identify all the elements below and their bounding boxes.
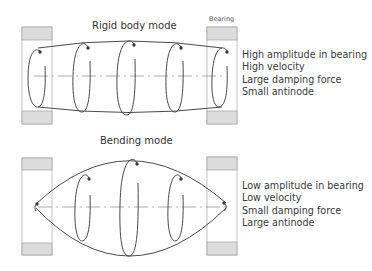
rigid-mode-figure (22, 27, 237, 124)
bending-coil-dots (35, 162, 225, 205)
rigid-coils (28, 41, 227, 115)
right-bearing-bottom (207, 157, 237, 255)
bending-coils (35, 159, 226, 256)
rigid-property-3: Large damping force (242, 74, 367, 86)
bending-property-4: Large antinode (242, 217, 364, 229)
rigid-property-4: Small antinode (242, 86, 367, 98)
rotor-mode-diagram (0, 0, 372, 271)
bending-mode-figure (22, 157, 237, 256)
bending-property-1: Low amplitude in bearing (242, 180, 364, 192)
bending-envelope-top (36, 161, 226, 204)
bending-property-2: Low velocity (242, 192, 364, 204)
bearing-label: Bearing (209, 15, 234, 23)
rigid-envelope-top (38, 41, 222, 48)
rigid-mode-properties: High amplitude in bearing High velocity … (242, 49, 367, 98)
bending-mode-title: Bending mode (100, 135, 173, 146)
bending-envelope-bottom (36, 208, 226, 256)
rigid-property-2: High velocity (242, 61, 367, 73)
right-bearing-top (207, 27, 237, 124)
rigid-envelope-bottom (38, 107, 222, 113)
bending-mode-properties: Low amplitude in bearing Low velocity Sm… (242, 180, 364, 229)
left-bearing-bottom (22, 158, 52, 255)
bending-property-3: Small damping force (242, 205, 364, 217)
left-bearing-top (22, 27, 52, 124)
rigid-mode-title: Rigid body mode (92, 20, 177, 31)
rigid-property-1: High amplitude in bearing (242, 49, 367, 61)
